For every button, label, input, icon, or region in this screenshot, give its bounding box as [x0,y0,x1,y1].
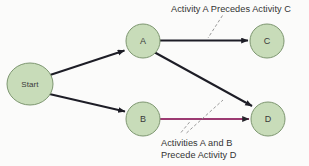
leader-line-ac [208,16,223,39]
node-d[interactable]: D [251,102,285,136]
node-a-label: A [140,36,146,46]
annotation-ab-precede-d-line1: Activities A and B [161,138,232,148]
node-a[interactable]: A [126,24,160,58]
annotation-a-precedes-c: Activity A Precedes Activity C [171,4,291,14]
edge-start-to-b [45,93,125,112]
node-start-label: Start [21,80,39,89]
edge-a-to-d [154,52,252,106]
leader-line-bd [181,121,191,133]
node-b[interactable]: B [126,102,160,136]
node-c-label: C [264,36,271,46]
diagram-canvas: Start A C B D Activity A Precedes Activi… [0,0,309,166]
node-d-label: D [265,114,272,124]
node-b-label: B [140,114,146,124]
annotation-ab-precede-d-line2: Precede Activity D [161,150,237,160]
edge-start-to-a [47,51,125,77]
precedence-diagram: Start A C B D Activity A Precedes Activi… [0,0,309,166]
node-start[interactable]: Start [7,63,53,105]
node-c[interactable]: C [250,24,284,58]
leader-line-ad [187,100,224,133]
